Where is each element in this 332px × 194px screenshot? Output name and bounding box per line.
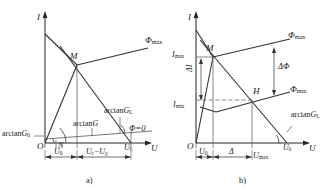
panel-a-angle-arc-g0	[53, 138, 55, 143]
panel-b-dim-deltai-arrow-top	[199, 58, 203, 64]
panel-b-phimin-sym: Φ	[290, 84, 297, 94]
diagram-canvas	[0, 0, 332, 194]
panel-b-y-axis-label: I	[188, 13, 191, 22]
panel-a-arctan-g-line	[45, 65, 77, 143]
panel-b-y-axis-arrow	[194, 11, 199, 18]
panel-b-x-axis-label: U	[309, 144, 316, 153]
panel-b-point-m-label: M	[206, 44, 214, 53]
panel-a-ub-tick-label: Ub	[124, 144, 133, 153]
panel-b-phimax-label: Φmax	[288, 31, 305, 40]
panel-b-origin-label: O	[187, 142, 194, 151]
panel-b-imin-sub: min	[176, 103, 184, 109]
panel-b-dim-deltaphi-arrow-bottom	[272, 90, 276, 96]
panel-b-ub-tick-label: Ub	[283, 144, 292, 153]
panel-b-phimin-label: Φmin	[290, 85, 306, 94]
panel-b-dim-delta-arrow-left	[213, 155, 219, 159]
panel-a-dim-u0-sub: 0	[60, 150, 63, 156]
panel-b-point-h-label: H	[253, 87, 260, 96]
figure-container: I U O M N Φmax Φ=0 arctanG0 arctanG arct…	[0, 0, 332, 194]
panel-b-ub-sub: b	[289, 146, 292, 152]
panel-a-dim-ub-u0-arrow-right	[125, 155, 131, 159]
panel-b-dim-delta-label: Δ	[229, 148, 234, 156]
panel-b-umax-tick-label: Umax	[253, 152, 268, 161]
panel-b-imin-tick-label: Imin	[173, 101, 184, 110]
panel-b-dim-deltai-label: ΔI	[186, 65, 194, 72]
panel-b-caption: b)	[239, 176, 246, 185]
panel-b-imax-tick-label: Imax	[172, 51, 184, 60]
panel-a-arctan-g-sym: G	[93, 119, 99, 128]
panel-b-arctan-gl-text: arctan	[291, 110, 311, 119]
panel-b-dim-u0-label: U0	[199, 148, 208, 157]
panel-b-phimax-curve-right	[213, 39, 290, 57]
panel-a-y-axis-label: I	[37, 13, 40, 22]
panel-a-point-m-label: M	[70, 52, 78, 61]
panel-a-phimax-curve-right	[77, 48, 148, 65]
panel-b-dim-deltaphi-arrow-top	[272, 47, 276, 53]
panel-b-dim-deltaphi-label: ΔΦ	[278, 62, 289, 71]
panel-a-dim-ub-u0-label: Uₑ−U₀	[86, 148, 108, 156]
panel-a-y-axis-arrow	[43, 11, 48, 18]
panel-b-phimin-sub: min	[297, 88, 307, 94]
panel-a-phimax-label: Φmax	[145, 36, 162, 45]
panel-a-dim-ub-u0-arrow-left	[77, 155, 83, 159]
panel-b-phimax-sym: Φ	[288, 30, 295, 40]
panel-a-graphics	[34, 11, 152, 160]
panel-a-x-axis-label: U	[151, 144, 158, 153]
panel-a-arctan-gl-label: arctanGL	[104, 107, 133, 116]
panel-a-dim-u0-arrow-left	[45, 155, 51, 159]
panel-b-arctan-gl-leader	[287, 126, 292, 132]
panel-a-arctan-g0-sub: 0	[27, 132, 30, 138]
panel-a-arctan-g0-text: arctan	[2, 129, 22, 138]
panel-a-arctan-g-text: arctan	[73, 119, 93, 128]
panel-b-arctan-gl-label: arctanGL	[291, 111, 320, 120]
panel-b-dim-u0-sub: 0	[205, 150, 208, 156]
panel-a-phimax-sub: max	[152, 39, 163, 45]
panel-a-dim-u0-label: U0	[54, 148, 63, 157]
panel-b-angle-arc-gl	[277, 135, 280, 143]
panel-a-ub-sub: b	[130, 146, 133, 152]
panel-a-arctan-gl-text: arctan	[104, 106, 124, 115]
panel-b-dim-u0-arrow-right	[207, 155, 213, 159]
panel-a-dim-u0-arrow-right	[71, 155, 77, 159]
panel-a-phimax-sym: Φ	[145, 35, 152, 45]
panel-b-umax-sub: max	[259, 154, 268, 160]
panel-b-dim-delta-arrow-right	[246, 155, 252, 159]
panel-b-arctan-gl-sub: L	[316, 113, 319, 119]
panel-a-caption: a)	[86, 176, 93, 185]
panel-a-arctan-g0-label: arctanG0	[2, 130, 30, 139]
panel-b-imax-sub: max	[175, 53, 184, 59]
panel-a-arctan-gl-sub: L	[129, 109, 132, 115]
panel-b-phimax-sub: max	[295, 34, 306, 40]
panel-a-phizero-label: Φ=0	[129, 124, 145, 133]
panel-a-origin-label: O	[37, 142, 44, 151]
panel-a-arctan-g-label: arctanG	[73, 120, 98, 128]
